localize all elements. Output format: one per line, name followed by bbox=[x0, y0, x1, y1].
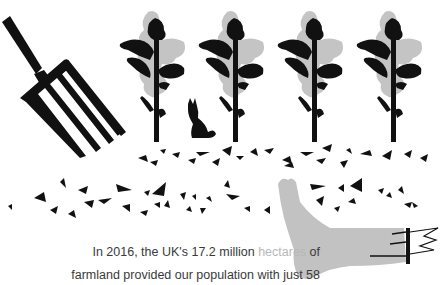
plant-icon bbox=[120, 11, 185, 142]
caption-line-2: farmland provided our population with ju… bbox=[40, 264, 320, 285]
hectares-link[interactable]: hectares bbox=[258, 245, 306, 259]
caption-line-1: In 2016, the UK's 17.2 million hectares … bbox=[40, 241, 320, 264]
soil-fragments bbox=[8, 144, 428, 218]
hare-icon bbox=[188, 98, 216, 138]
article-caption: In 2016, the UK's 17.2 million hectares … bbox=[40, 241, 320, 285]
pitchfork-icon bbox=[2, 16, 126, 158]
plant-row bbox=[120, 11, 422, 142]
